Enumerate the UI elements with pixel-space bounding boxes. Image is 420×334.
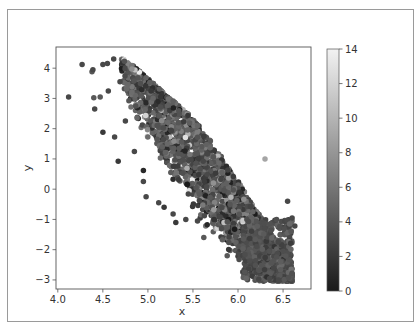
data-point: [256, 267, 262, 273]
data-point: [154, 136, 160, 142]
data-point: [195, 123, 201, 129]
data-point: [193, 160, 199, 166]
x-tick-label: 5.5: [185, 294, 201, 305]
data-point: [211, 207, 217, 213]
colorbar-tick-label: 10: [345, 113, 358, 124]
y-tick-label: 2: [44, 123, 50, 134]
colorbar-tick-label: 8: [345, 147, 351, 158]
data-point: [168, 170, 174, 176]
data-point: [176, 151, 182, 157]
data-point: [249, 229, 255, 235]
data-point: [241, 197, 247, 203]
data-point: [115, 159, 121, 165]
data-point: [250, 209, 256, 215]
data-point: [158, 94, 164, 100]
data-point: [123, 118, 128, 124]
data-point: [276, 277, 282, 283]
data-point: [181, 119, 187, 125]
data-point: [170, 211, 176, 217]
data-point: [248, 204, 254, 210]
data-point: [205, 151, 211, 157]
data-point: [196, 172, 202, 178]
data-point: [232, 227, 238, 233]
data-point: [201, 235, 207, 241]
colorbar-tick-label: 14: [345, 44, 358, 55]
data-point: [117, 79, 123, 85]
data-point: [174, 170, 180, 176]
data-point: [224, 253, 230, 259]
colorbar-tick-label: 4: [345, 216, 351, 227]
data-point: [185, 113, 191, 119]
data-point: [129, 90, 135, 96]
data-point: [161, 137, 167, 143]
y-tick-label: 3: [44, 93, 50, 104]
data-point: [275, 239, 281, 245]
colorbar-ticks: 02468101214: [339, 44, 358, 297]
data-point: [145, 127, 151, 133]
data-point: [171, 139, 177, 145]
data-point: [225, 219, 231, 225]
data-point: [188, 157, 194, 163]
data-point: [195, 151, 201, 157]
data-point: [255, 223, 261, 229]
data-point: [223, 181, 229, 187]
data-point: [150, 130, 156, 136]
data-point: [176, 108, 182, 114]
data-point: [266, 249, 272, 255]
data-point: [207, 195, 213, 201]
data-point: [168, 127, 174, 133]
data-point: [210, 187, 216, 193]
data-point: [176, 146, 182, 152]
data-point: [91, 95, 97, 101]
data-point: [241, 236, 247, 242]
y-tick-label: 1: [44, 153, 50, 164]
data-point: [157, 86, 163, 92]
colorbar-tick-label: 2: [345, 251, 351, 262]
data-point: [207, 145, 213, 151]
data-point: [211, 217, 217, 223]
data-point: [204, 184, 210, 190]
data-point: [143, 113, 149, 119]
data-point: [161, 205, 167, 211]
data-point: [261, 221, 267, 227]
data-point: [142, 107, 148, 113]
data-point: [183, 217, 189, 223]
data-point: [283, 253, 289, 259]
data-point: [66, 94, 72, 100]
data-point: [246, 219, 252, 225]
data-point: [194, 130, 200, 136]
x-tick-label: 4.0: [50, 294, 66, 305]
data-point: [289, 215, 295, 221]
data-point: [187, 120, 193, 126]
data-point: [79, 62, 85, 68]
y-axis-label: y: [21, 164, 34, 171]
data-point: [216, 193, 222, 199]
data-point: [128, 104, 134, 110]
data-point: [135, 75, 141, 81]
data-point: [182, 148, 188, 154]
data-point: [218, 176, 224, 182]
data-point: [242, 269, 248, 275]
data-point: [195, 134, 201, 140]
data-point: [196, 156, 202, 162]
data-point: [90, 67, 96, 73]
data-point: [256, 277, 262, 283]
y-axis-ticks: −3−2−101234: [35, 63, 56, 286]
data-point: [197, 191, 203, 197]
data-point: [244, 276, 250, 282]
data-point: [219, 205, 225, 211]
data-point: [170, 98, 176, 104]
data-point: [221, 188, 227, 194]
data-point: [105, 61, 111, 67]
y-tick-label: 0: [44, 184, 50, 195]
data-point: [271, 265, 277, 271]
scatter-points: [66, 56, 298, 284]
data-point: [199, 144, 205, 150]
data-point: [193, 185, 199, 191]
data-point: [204, 222, 210, 228]
data-point: [122, 66, 128, 72]
y-tick-label: 4: [44, 63, 50, 74]
data-point: [154, 123, 160, 128]
data-point: [190, 204, 196, 210]
data-point: [97, 94, 103, 100]
